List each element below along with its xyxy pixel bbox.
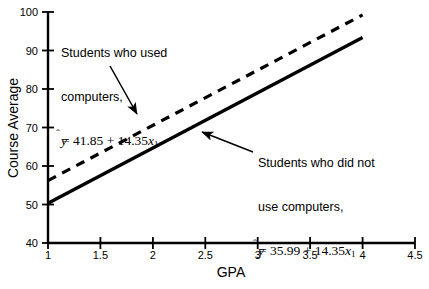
- x-tick-label: 2: [150, 249, 156, 261]
- annotation-equation: ŷ= 41.85 + 14.35x1: [61, 133, 167, 152]
- y-tick-label: 90: [26, 45, 38, 57]
- x-axis-title: GPA: [217, 264, 246, 280]
- y-tick-label: 70: [26, 122, 38, 134]
- x-tick-label: 1: [45, 249, 51, 261]
- annotation-line-2: use computers,: [258, 200, 375, 215]
- annotation-line-1: Students who used: [61, 46, 167, 61]
- regression-chart: 40 50 60 70 80 90 100 1 1.5 2 2.5 3 3.5 …: [0, 0, 429, 289]
- annotation-arrow-no-computers: [202, 132, 253, 152]
- equation-sub: 1: [351, 249, 356, 259]
- annotation-equation: ŷ= 35.99 + 14.35x1: [258, 243, 375, 262]
- equation-rhs: = 35.99 + 14.35: [259, 243, 345, 258]
- x-tick-label: 4.5: [407, 249, 422, 261]
- y-tick-label: 40: [26, 237, 38, 249]
- annotation-used-computers: Students who used computers, ŷ= 41.85 +…: [61, 17, 167, 181]
- y-tick-labels: 40 50 60 70 80 90 100: [20, 6, 38, 249]
- y-axis-title: Course Average: [5, 78, 21, 178]
- y-tick-label: 60: [26, 160, 38, 172]
- x-tick-label: 1.5: [93, 249, 108, 261]
- y-tick-label: 80: [26, 83, 38, 95]
- y-tick-label: 50: [26, 199, 38, 211]
- equation-sub: 1: [154, 139, 159, 149]
- y-tick-label: 100: [20, 6, 38, 18]
- equation-rhs: = 41.85 + 14.35: [62, 133, 148, 148]
- annotation-line-2: computers,: [61, 90, 167, 105]
- x-tick-label: 2.5: [198, 249, 213, 261]
- annotation-line-1: Students who did not: [258, 156, 375, 171]
- annotation-no-computers: Students who did not use computers, ŷ= …: [258, 127, 375, 289]
